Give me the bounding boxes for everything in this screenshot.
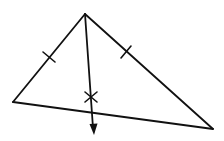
triangle-diagram: Triangle with angle bisector from apex; …	[0, 0, 224, 141]
ray-line	[85, 14, 93, 128]
base-side	[13, 102, 213, 129]
triangle	[13, 14, 213, 129]
arrow-down-icon	[90, 124, 98, 136]
bisector-ray	[85, 14, 98, 135]
right-side	[85, 14, 213, 129]
